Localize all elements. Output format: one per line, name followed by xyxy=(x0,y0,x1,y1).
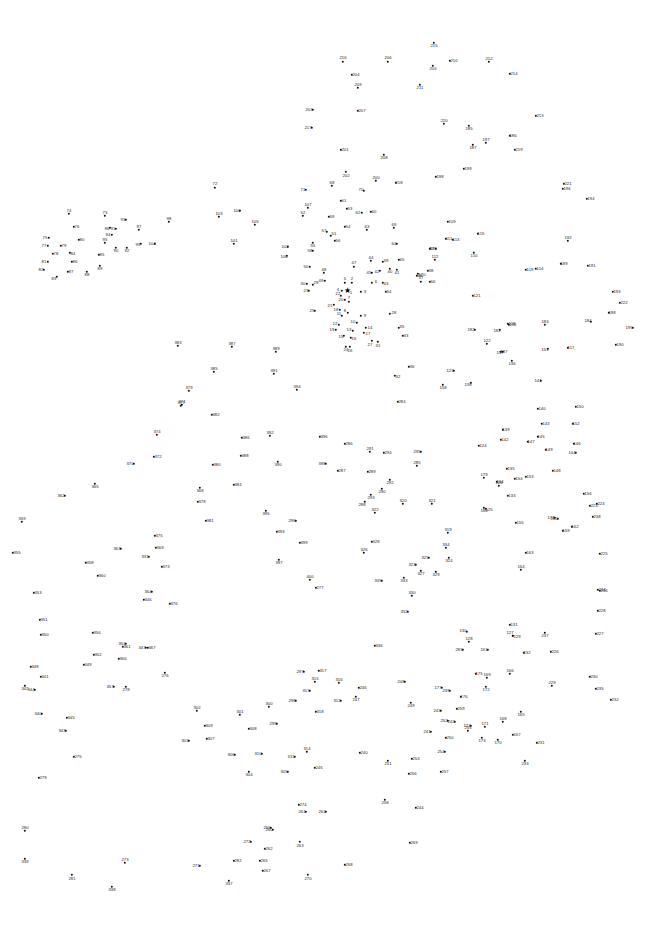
puzzle-dot[interactable] xyxy=(111,234,113,236)
puzzle-dot[interactable] xyxy=(333,304,335,306)
puzzle-dot[interactable] xyxy=(348,301,350,303)
puzzle-dot[interactable] xyxy=(393,227,395,229)
puzzle-dot[interactable] xyxy=(138,229,140,231)
puzzle-dot[interactable] xyxy=(544,324,546,326)
puzzle-dot[interactable] xyxy=(309,579,311,581)
puzzle-dot[interactable] xyxy=(370,260,372,262)
puzzle-dot[interactable] xyxy=(296,389,298,391)
puzzle-dot[interactable] xyxy=(375,180,377,182)
puzzle-dot[interactable] xyxy=(353,266,355,268)
puzzle-dot[interactable] xyxy=(447,532,449,534)
puzzle-dot[interactable] xyxy=(104,242,106,244)
puzzle-dot[interactable] xyxy=(352,330,354,332)
puzzle-dot[interactable] xyxy=(156,434,158,436)
puzzle-dot[interactable] xyxy=(124,862,126,864)
puzzle-dot[interactable] xyxy=(324,280,326,282)
puzzle-dot[interactable] xyxy=(387,61,389,63)
puzzle-dot-label: 165 xyxy=(517,713,524,717)
puzzle-dot[interactable] xyxy=(360,291,362,293)
puzzle-dot[interactable] xyxy=(269,435,271,437)
puzzle-dot[interactable] xyxy=(275,351,277,353)
puzzle-dot[interactable] xyxy=(344,282,346,284)
puzzle-dot[interactable] xyxy=(509,673,511,675)
puzzle-dot[interactable] xyxy=(371,282,373,284)
puzzle-dot[interactable] xyxy=(338,324,340,326)
puzzle-dot[interactable] xyxy=(47,245,49,247)
puzzle-dot[interactable] xyxy=(188,390,190,392)
puzzle-dot[interactable] xyxy=(214,187,216,189)
puzzle-dot[interactable] xyxy=(331,185,333,187)
puzzle-dot[interactable] xyxy=(431,503,433,505)
puzzle-dot[interactable] xyxy=(218,216,220,218)
puzzle-dot[interactable] xyxy=(502,721,504,723)
puzzle-dot[interactable] xyxy=(416,465,418,467)
puzzle-dot[interactable] xyxy=(268,706,270,708)
puzzle-dot-label: 72 xyxy=(213,182,218,186)
puzzle-dot[interactable] xyxy=(366,229,368,231)
puzzle-dot[interactable] xyxy=(307,207,309,209)
puzzle-dot[interactable] xyxy=(168,221,170,223)
puzzle-dot[interactable] xyxy=(344,299,346,301)
puzzle-dot[interactable] xyxy=(239,714,241,716)
puzzle-dot-label: 326 xyxy=(360,548,367,552)
puzzle-dot[interactable] xyxy=(351,282,353,284)
puzzle-dot-label: 272 xyxy=(243,840,250,844)
puzzle-dot[interactable] xyxy=(483,477,485,479)
puzzle-dot-label: 212 xyxy=(485,57,492,61)
puzzle-dot[interactable] xyxy=(21,521,23,523)
puzzle-dot[interactable] xyxy=(302,215,304,217)
puzzle-dot[interactable] xyxy=(484,726,486,728)
puzzle-dot[interactable] xyxy=(361,212,363,214)
puzzle-dot[interactable] xyxy=(338,682,340,684)
puzzle-dot[interactable] xyxy=(213,371,215,373)
puzzle-dot[interactable] xyxy=(254,224,256,226)
puzzle-dot[interactable] xyxy=(309,266,311,268)
puzzle-dot[interactable] xyxy=(467,730,469,732)
puzzle-dot[interactable] xyxy=(443,123,445,125)
puzzle-dot[interactable] xyxy=(360,315,362,317)
puzzle-dot[interactable] xyxy=(47,261,49,263)
puzzle-dot[interactable] xyxy=(357,87,359,89)
puzzle-dot[interactable] xyxy=(231,346,233,348)
puzzle-dot[interactable] xyxy=(486,343,488,345)
puzzle-dot[interactable] xyxy=(233,243,235,245)
puzzle-dot[interactable] xyxy=(356,322,358,324)
puzzle-dot[interactable] xyxy=(551,685,553,687)
puzzle-dot-label: 2 xyxy=(351,277,353,281)
puzzle-dot[interactable] xyxy=(520,569,522,571)
puzzle-dot-label: 13 xyxy=(347,328,352,332)
puzzle-dot[interactable] xyxy=(498,485,500,487)
puzzle-dot[interactable] xyxy=(485,142,487,144)
puzzle-dot[interactable] xyxy=(306,751,308,753)
puzzle-dot[interactable] xyxy=(411,595,413,597)
puzzle-dot-label: 364 xyxy=(144,590,151,594)
puzzle-dot-label: 65 xyxy=(400,258,405,262)
puzzle-dot-label: 316 xyxy=(335,678,342,682)
puzzle-dot[interactable] xyxy=(314,681,316,683)
puzzle-dot-label: 60 xyxy=(372,210,377,214)
puzzle-dot[interactable] xyxy=(24,830,26,832)
puzzle-dot[interactable] xyxy=(402,503,404,505)
puzzle-dot[interactable] xyxy=(486,677,488,679)
puzzle-dot[interactable] xyxy=(374,512,376,514)
puzzle-dot[interactable] xyxy=(104,215,106,217)
puzzle-dot[interactable] xyxy=(48,237,50,239)
puzzle-dot[interactable] xyxy=(196,710,198,712)
puzzle-dot[interactable] xyxy=(420,281,422,283)
puzzle-dot[interactable] xyxy=(445,547,447,549)
puzzle-dot[interactable] xyxy=(273,373,275,375)
puzzle-dot[interactable] xyxy=(363,552,365,554)
puzzle-dot[interactable] xyxy=(177,345,179,347)
puzzle-dot[interactable] xyxy=(434,259,436,261)
puzzle-dot[interactable] xyxy=(347,312,349,314)
puzzle-dot[interactable] xyxy=(468,641,470,643)
puzzle-dot[interactable] xyxy=(369,451,371,453)
puzzle-dot[interactable] xyxy=(342,61,344,63)
puzzle-dot[interactable] xyxy=(488,61,490,63)
puzzle-dot[interactable] xyxy=(323,272,325,274)
puzzle-dot[interactable] xyxy=(335,329,337,331)
puzzle-dot-label: 333 xyxy=(400,579,407,583)
puzzle-dot[interactable] xyxy=(306,283,308,285)
puzzle-dot[interactable] xyxy=(68,213,70,215)
puzzle-dot[interactable] xyxy=(567,240,569,242)
